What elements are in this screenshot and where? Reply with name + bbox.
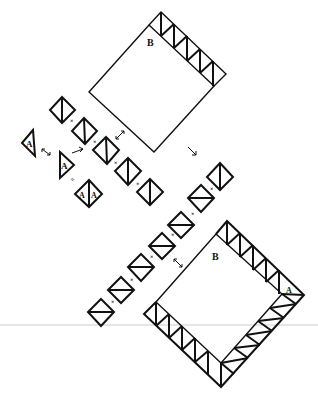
down-right-arrow-icon (188, 147, 196, 155)
times-sign: × (136, 181, 139, 187)
times-sign: × (171, 232, 174, 238)
label-aa-right: A (91, 191, 97, 200)
label-b-top: B (147, 37, 154, 48)
times-sign: × (111, 299, 114, 305)
times-sign: × (93, 139, 96, 145)
label-aa-left: A (79, 191, 85, 200)
times-sign: × (210, 186, 213, 192)
equals-sign: = (68, 175, 76, 183)
rotate-arrow-icon (42, 149, 50, 155)
rotate-arrow-icon (116, 131, 124, 139)
upper-chain: × × × × (50, 97, 163, 205)
top-block-b: B (89, 12, 226, 152)
quilt-assembly-diagram: B A A = A A × × × (0, 0, 318, 404)
label-a-2: A (61, 161, 68, 171)
combined-unit-aa: A A (75, 180, 102, 207)
times-sign: × (70, 118, 73, 124)
half-triangle-a-1: A (22, 130, 35, 156)
times-sign: × (150, 254, 153, 260)
rotate-arrow-icon (174, 259, 182, 267)
times-sign: × (191, 211, 194, 217)
label-b-bottom: B (212, 251, 219, 262)
lower-chain: × × × × × × (88, 163, 233, 326)
label-a-1: A (26, 139, 33, 149)
label-a-corner: A (286, 286, 292, 295)
times-sign: × (130, 277, 133, 283)
half-triangle-a-2: A (60, 152, 74, 178)
right-arrow-icon (72, 147, 83, 153)
chain-unit-5 (137, 179, 163, 205)
times-sign: × (114, 160, 117, 166)
